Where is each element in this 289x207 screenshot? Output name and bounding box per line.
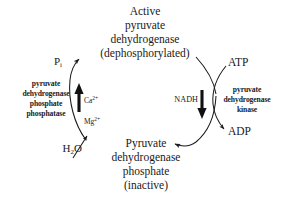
cofactor-ions-label: Ca2+ Mg2+	[84, 85, 114, 138]
atp-label: ATP	[228, 55, 268, 69]
nadh-label: NADH	[166, 95, 198, 105]
inorganic-phosphate-label: Pi	[40, 55, 62, 69]
state-inactive-label: Pyruvate dehydrogenase phosphate (inacti…	[82, 136, 210, 192]
magnesium-ion-label: Mg2+	[84, 116, 114, 127]
enzyme-phosphatase-label: pyruvate dehydrogenase phosphate phospha…	[6, 79, 86, 118]
enzyme-kinase-label: pyruvate dehydrogenase kinase	[207, 85, 287, 115]
water-label: H2O	[48, 142, 82, 156]
adp-label: ADP	[228, 124, 268, 138]
state-active-label: Active pyruvate dehydrogenase (dephospho…	[78, 4, 212, 60]
calcium-ion-label: Ca2+	[84, 95, 114, 106]
pdh-regulation-diagram: Active pyruvate dehydrogenase (dephospho…	[0, 0, 289, 207]
kinase-activation-arrow	[197, 90, 206, 119]
